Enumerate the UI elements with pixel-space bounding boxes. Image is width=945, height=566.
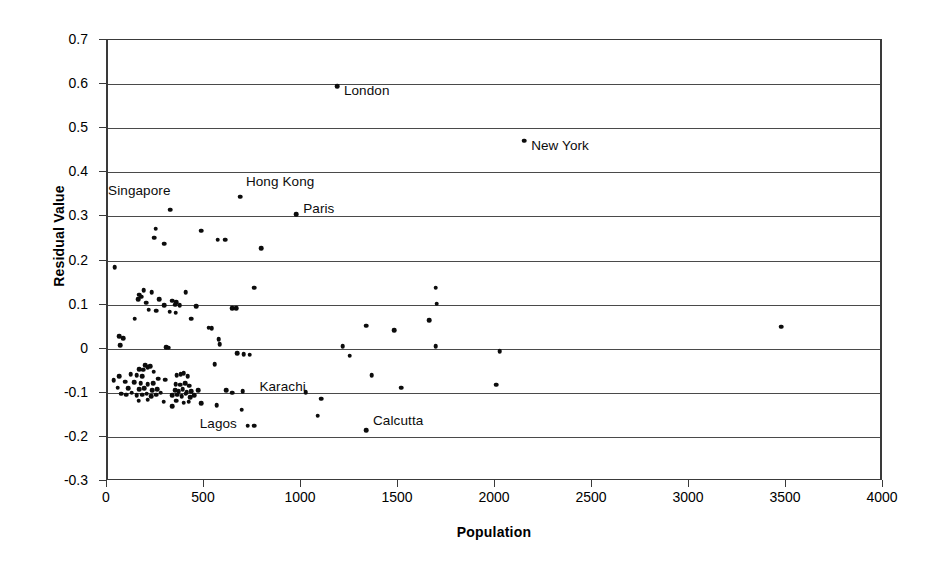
data-point [522,138,527,143]
data-point [187,383,192,388]
data-point [174,398,179,403]
data-point [141,368,146,373]
point-annotation: Lagos [200,416,237,431]
data-point [153,226,158,231]
data-point [162,241,167,246]
x-tick-mark [300,480,301,487]
data-point [145,398,150,403]
data-point [209,326,214,331]
x-tick-label: 1000 [260,489,340,505]
data-point [146,308,151,313]
data-point [138,381,143,386]
gridline [108,261,880,262]
data-point [252,286,257,291]
x-tick-mark [397,480,398,487]
data-point [162,303,167,308]
point-annotation: Karachi [259,379,305,394]
data-point [152,235,157,240]
plot-area: LondonNew YorkSingaporeHong KongParisKar… [106,39,882,480]
data-point [144,301,149,306]
data-point [335,84,340,89]
x-tick-mark [591,480,592,487]
data-point [340,344,345,349]
data-point [158,391,163,396]
x-tick-label: 0 [66,489,146,505]
y-tick-label: 0.4 [36,163,88,179]
data-point [148,364,153,369]
data-point [156,376,161,381]
data-point [183,391,188,396]
data-point [245,424,250,429]
data-point [214,403,219,408]
data-point [186,399,191,404]
data-point [162,399,167,404]
data-point [142,288,147,293]
x-tick-label: 4000 [842,489,922,505]
data-point [230,391,235,396]
data-point [129,391,134,396]
data-point [121,336,126,341]
data-point [364,428,369,433]
data-point [194,304,199,309]
gridline [108,172,880,173]
data-point [196,388,201,393]
data-point [136,297,141,302]
x-tick-label: 1500 [357,489,437,505]
data-point [435,301,440,306]
data-point [174,310,179,315]
gridline [108,349,880,350]
data-point [151,369,156,374]
data-point [170,404,175,409]
data-point [112,265,117,270]
x-tick-label: 2500 [551,489,631,505]
x-axis-title: Population [106,524,882,540]
data-point [124,392,129,397]
y-tick-label: -0.1 [36,384,88,400]
data-point [118,343,123,348]
data-point [370,373,375,378]
x-tick-mark [785,480,786,487]
data-point [216,337,221,342]
data-point [247,353,252,358]
data-point [154,308,159,313]
data-point [224,388,229,393]
data-point [215,237,220,242]
gridline [108,437,880,438]
data-point [315,413,320,418]
data-point [238,194,243,199]
data-point [189,316,194,321]
x-tick-label: 2000 [454,489,534,505]
data-point [115,385,120,390]
data-point [170,393,175,398]
data-point [129,372,134,377]
data-point [223,237,228,242]
gridline [108,128,880,129]
data-point [119,391,124,396]
data-point [132,316,137,321]
data-point [241,389,246,394]
point-annotation: Hong Kong [246,174,314,189]
y-tick-label: 0.3 [36,207,88,223]
x-tick-label: 3000 [648,489,728,505]
data-point [252,424,257,429]
gridline [108,305,880,306]
data-point [399,385,404,390]
y-tick-label: 0.7 [36,31,88,47]
data-point [183,290,188,295]
gridline [108,216,880,217]
data-point [364,323,369,328]
point-annotation: Paris [303,201,334,216]
data-point [136,398,141,403]
data-point [166,346,171,351]
data-point [140,374,145,379]
data-point [434,286,439,291]
y-tick-label: 0.6 [36,75,88,91]
data-point [392,328,397,333]
y-tick-label: 0 [36,340,88,356]
data-point [168,207,173,212]
data-point [779,324,784,329]
x-tick-mark [106,480,107,487]
point-annotation: Calcutta [373,413,423,428]
data-point [319,396,324,401]
x-tick-mark [882,480,883,487]
